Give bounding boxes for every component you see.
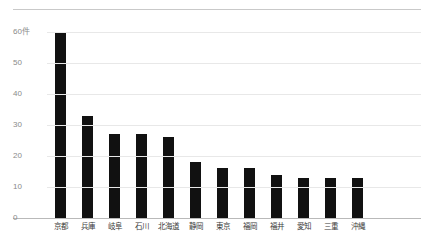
- x-axis-category-label: 東京: [209, 221, 236, 233]
- gridline: [47, 94, 421, 95]
- bar: [325, 178, 336, 218]
- y-axis-tick-label: 40: [13, 90, 45, 98]
- x-axis-category-label: 福岡: [236, 221, 263, 233]
- bar-chart: 0102030405060件 京都兵庫岐阜石川北海道静岡東京福岡福井愛知三重沖縄: [0, 0, 429, 243]
- x-axis-category-label: 三重: [317, 221, 344, 233]
- bar: [136, 134, 147, 218]
- bar: [163, 137, 174, 218]
- x-axis-category-label: 兵庫: [74, 221, 101, 233]
- x-axis-category-label: 石川: [128, 221, 155, 233]
- y-axis-tick-label: 20: [13, 152, 45, 160]
- x-axis-category-label: 静岡: [182, 221, 209, 233]
- plot-area: [47, 32, 421, 218]
- bar: [82, 116, 93, 218]
- y-axis-tick-label: 10: [13, 183, 45, 191]
- gridline: [47, 187, 421, 188]
- y-axis-tick-label: 50: [13, 59, 45, 67]
- y-axis-tick-label: 60件: [13, 28, 45, 36]
- bar: [244, 168, 255, 218]
- x-axis-baseline: [13, 218, 421, 219]
- gridline: [47, 156, 421, 157]
- y-axis-tick-label: 0: [13, 214, 45, 222]
- gridline: [47, 32, 421, 33]
- bar: [109, 134, 120, 218]
- x-axis-category-label: 愛知: [290, 221, 317, 233]
- gridline: [47, 125, 421, 126]
- bar: [352, 178, 363, 218]
- x-axis-category-label: 京都: [47, 221, 74, 233]
- top-divider-rule: [13, 9, 421, 10]
- x-axis-category-label: 福井: [263, 221, 290, 233]
- y-axis-tick-label: 30: [13, 121, 45, 129]
- x-axis-category-label: 北海道: [155, 221, 182, 233]
- bar: [271, 175, 282, 218]
- bar: [217, 168, 228, 218]
- x-axis-category-labels: 京都兵庫岐阜石川北海道静岡東京福岡福井愛知三重沖縄: [47, 221, 421, 235]
- bar: [298, 178, 309, 218]
- gridline: [47, 63, 421, 64]
- x-axis-category-label: 沖縄: [344, 221, 371, 233]
- bar: [190, 162, 201, 218]
- x-axis-category-label: 岐阜: [101, 221, 128, 233]
